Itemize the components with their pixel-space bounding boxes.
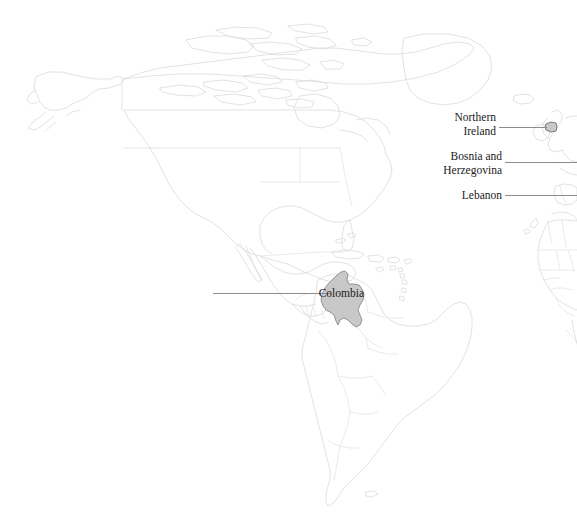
label-line: Lebanon [462,189,502,203]
label-colombia: Colombia [319,287,364,301]
label-lebanon: Lebanon [462,189,502,203]
label-line: Colombia [319,287,364,301]
label-line: Herzegovina [443,164,502,178]
label-line: Bosnia and [443,150,502,164]
map-canvas [0,0,577,517]
world-map: Northern Ireland Bosnia and Herzegovina … [0,0,577,517]
leader-line-northern-ireland [499,127,547,128]
label-northern-ireland: Northern Ireland [454,111,496,138]
leader-line-lebanon [505,195,577,196]
label-line: Ireland [454,125,496,139]
leader-line-colombia [213,293,331,294]
leader-line-bosnia-and-herzegovina [505,162,577,163]
label-line: Northern [454,111,496,125]
label-bosnia-and-herzegovina: Bosnia and Herzegovina [443,150,502,177]
country-outlines [27,24,577,506]
